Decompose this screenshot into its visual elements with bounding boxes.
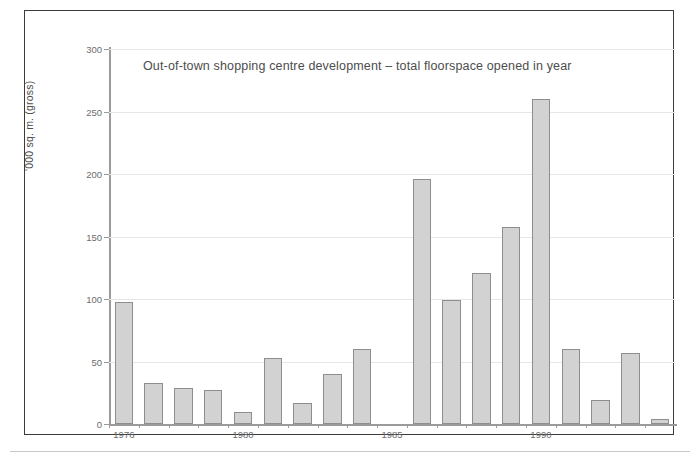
- bar: [204, 390, 222, 424]
- bar: [413, 179, 431, 424]
- x-axis-tick-label: 1976: [113, 429, 134, 440]
- y-axis-tick-label: 50: [91, 356, 102, 367]
- gridline: [109, 362, 675, 363]
- y-axis-title: '000 sq. m. (gross): [23, 0, 35, 171]
- x-axis-tick: [228, 424, 229, 428]
- bar: [621, 353, 639, 424]
- y-axis-tick: [104, 112, 109, 113]
- y-axis-tick-label: 200: [86, 169, 102, 180]
- bar: [353, 349, 371, 424]
- x-axis-tick: [645, 424, 646, 428]
- x-axis-tick: [288, 424, 289, 428]
- bar: [293, 403, 311, 424]
- gridline: [109, 112, 675, 113]
- chart-page: Out-of-town shopping centre development …: [0, 0, 700, 461]
- gridline: [109, 299, 675, 300]
- bar: [502, 227, 520, 425]
- x-axis-tick-label: 1985: [381, 429, 402, 440]
- x-axis-tick: [496, 424, 497, 428]
- plot-area: [109, 49, 675, 424]
- y-axis-tick: [104, 174, 109, 175]
- y-axis-tick-label: 100: [86, 294, 102, 305]
- y-axis-tick-label: 0: [97, 419, 102, 430]
- bar: [532, 99, 550, 424]
- y-axis-tick: [104, 362, 109, 363]
- x-axis-tick: [526, 424, 527, 428]
- bar: [234, 412, 252, 425]
- x-axis-tick: [437, 424, 438, 428]
- bar: [651, 419, 669, 424]
- bar: [323, 374, 341, 424]
- x-axis-tick: [109, 424, 110, 428]
- x-axis-tick: [407, 424, 408, 428]
- x-axis-tick: [556, 424, 557, 428]
- bar: [174, 388, 192, 424]
- y-axis-tick-label: 150: [86, 231, 102, 242]
- bar: [562, 349, 580, 424]
- bottom-divider: [10, 451, 690, 452]
- x-axis-tick: [169, 424, 170, 428]
- y-axis-tick: [104, 237, 109, 238]
- bar: [591, 400, 609, 424]
- x-axis-tick-label: 1990: [530, 429, 551, 440]
- bar: [144, 383, 162, 424]
- x-axis-tick: [318, 424, 319, 428]
- y-axis-tick: [104, 49, 109, 50]
- x-axis-tick: [586, 424, 587, 428]
- bar: [442, 300, 460, 424]
- gridline: [109, 237, 675, 238]
- x-axis-tick: [377, 424, 378, 428]
- x-axis-tick: [347, 424, 348, 428]
- x-axis-tick: [615, 424, 616, 428]
- figure-frame: Out-of-town shopping centre development …: [24, 10, 674, 435]
- y-axis-tick-label: 250: [86, 106, 102, 117]
- x-axis-tick: [258, 424, 259, 428]
- x-axis-tick: [139, 424, 140, 428]
- gridline: [109, 174, 675, 175]
- x-axis-line: [109, 424, 677, 426]
- bar: [472, 273, 490, 424]
- bar: [264, 358, 282, 424]
- gridline: [109, 49, 675, 50]
- y-axis-tick: [104, 299, 109, 300]
- bar: [115, 302, 133, 425]
- y-axis-tick-label: 300: [86, 44, 102, 55]
- x-axis-tick-label: 1980: [232, 429, 253, 440]
- x-axis-tick: [466, 424, 467, 428]
- x-axis-tick: [198, 424, 199, 428]
